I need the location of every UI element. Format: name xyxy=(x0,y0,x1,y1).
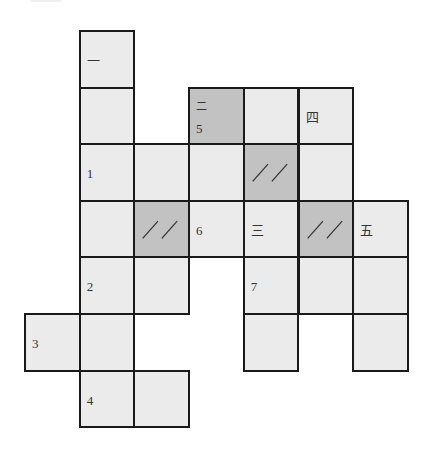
double-slash-icon xyxy=(245,145,298,200)
cell-label: 二 xyxy=(196,101,207,112)
grid-cell-r4-c4[interactable]: 7 xyxy=(243,256,300,315)
grid-cell-r1-c1[interactable] xyxy=(79,87,136,146)
grid-cell-r3-c6[interactable]: 五 xyxy=(352,200,409,259)
grid-cell-r3-c2[interactable] xyxy=(133,200,190,259)
grid-cell-r2-c5[interactable] xyxy=(298,143,355,202)
cell-label: 三 xyxy=(251,224,264,237)
grid-cell-r1-c4[interactable] xyxy=(243,87,300,146)
cell-label: 2 xyxy=(87,280,94,293)
double-slash-icon xyxy=(300,202,353,257)
grid-cell-r1-c3[interactable]: 二5 xyxy=(188,87,245,146)
grid-cell-r4-c1[interactable]: 2 xyxy=(79,256,136,315)
cell-label: 四 xyxy=(306,111,319,124)
cell-label: 一 xyxy=(87,54,100,67)
grid-cell-r4-c6[interactable] xyxy=(352,256,409,315)
cell-label: 6 xyxy=(196,224,203,237)
grid-cell-r3-c1[interactable] xyxy=(79,200,136,259)
grid-cell-r5-c0[interactable]: 3 xyxy=(24,313,81,372)
grid-cell-r6-c2[interactable] xyxy=(133,370,190,429)
grid-cell-r0-c1[interactable]: 一 xyxy=(79,30,136,89)
grid-cell-r3-c5[interactable] xyxy=(298,200,355,259)
grid-cell-r2-c4[interactable] xyxy=(243,143,300,202)
grid-cell-r2-c1[interactable]: 1 xyxy=(79,143,136,202)
double-slash-icon xyxy=(135,202,188,257)
grid-cell-r3-c3[interactable]: 6 xyxy=(188,200,245,259)
grid-cell-r5-c1[interactable] xyxy=(79,313,136,372)
grid-cell-r4-c2[interactable] xyxy=(133,256,190,315)
cell-label: 4 xyxy=(87,394,94,407)
grid-cell-r3-c4[interactable]: 三 xyxy=(243,200,300,259)
cell-label: 五 xyxy=(360,224,373,237)
crossword-grid: 一二5四16三五2734 xyxy=(0,0,429,449)
grid-cell-r2-c3[interactable] xyxy=(188,143,245,202)
cell-label: 7 xyxy=(251,280,258,293)
grid-cell-r5-c4[interactable] xyxy=(243,313,300,372)
top-artifact xyxy=(30,0,62,2)
cell-label: 5 xyxy=(196,122,203,135)
grid-cell-r5-c6[interactable] xyxy=(352,313,409,372)
grid-cell-r2-c2[interactable] xyxy=(133,143,190,202)
grid-cell-r6-c1[interactable]: 4 xyxy=(79,370,136,429)
grid-cell-r4-c5[interactable] xyxy=(298,256,355,315)
cell-label: 3 xyxy=(32,337,39,350)
grid-cell-r1-c5[interactable]: 四 xyxy=(298,87,355,146)
cell-label: 1 xyxy=(87,167,94,180)
